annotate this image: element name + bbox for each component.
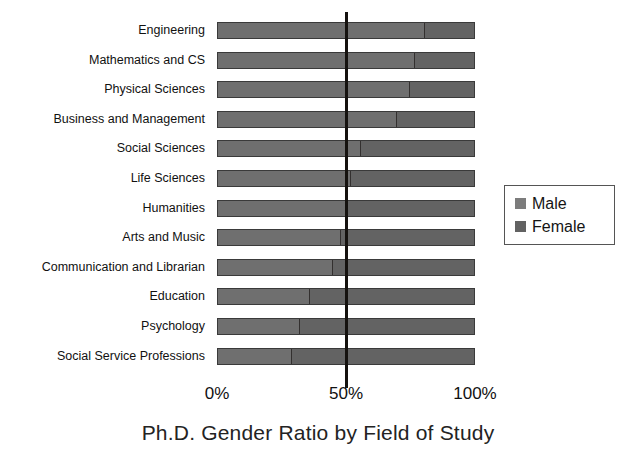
- bar-segment-female: [361, 141, 474, 156]
- x-axis-tick-label: 100%: [435, 382, 515, 406]
- x-axis-tick-label: 0%: [177, 382, 257, 406]
- bar-segment-male: [218, 141, 361, 156]
- bar-segment-female: [415, 53, 474, 68]
- chart-title: Ph.D. Gender Ratio by Field of Study: [0, 421, 636, 445]
- category-label: Psychology: [0, 318, 211, 335]
- legend-swatch-icon: [515, 198, 526, 209]
- category-label: Mathematics and CS: [0, 52, 211, 69]
- category-label: Business and Management: [0, 111, 211, 128]
- bar-segment-female: [292, 349, 474, 364]
- x-axis-tick-labels: 0%50%100%: [0, 382, 636, 408]
- bar-segment-male: [218, 112, 397, 127]
- bar-segment-female: [310, 289, 474, 304]
- bar-segment-male: [218, 289, 310, 304]
- legend-item: Female: [515, 215, 614, 238]
- chart-root: EngineeringMathematics and CSPhysical Sc…: [0, 0, 636, 459]
- chart-legend: MaleFemale: [504, 185, 615, 245]
- legend-label: Female: [532, 219, 585, 235]
- category-label: Education: [0, 288, 211, 305]
- bar-segment-female: [397, 112, 474, 127]
- bar-segment-male: [218, 319, 300, 334]
- legend-label: Male: [532, 196, 567, 212]
- category-label: Communication and Librarian: [0, 259, 211, 276]
- bar-segment-male: [218, 171, 351, 186]
- bar-segment-female: [300, 319, 474, 334]
- bar-segment-female: [341, 230, 474, 245]
- category-label: Physical Sciences: [0, 81, 211, 98]
- bar-segment-male: [218, 230, 341, 245]
- bar-segment-female: [410, 82, 474, 97]
- bar-segment-male: [218, 201, 346, 216]
- bar-segment-female: [346, 201, 474, 216]
- bar-segment-male: [218, 82, 410, 97]
- category-label: Engineering: [0, 22, 211, 39]
- legend-swatch-icon: [515, 221, 526, 232]
- bar-segment-male: [218, 349, 292, 364]
- category-label: Arts and Music: [0, 229, 211, 246]
- category-label: Life Sciences: [0, 170, 211, 187]
- category-label: Humanities: [0, 200, 211, 217]
- bar-segment-male: [218, 53, 415, 68]
- fifty-percent-reference-line: [345, 12, 348, 388]
- category-label: Social Sciences: [0, 140, 211, 157]
- legend-item: Male: [515, 192, 614, 215]
- category-label: Social Service Professions: [0, 348, 211, 365]
- bar-segment-male: [218, 260, 333, 275]
- bar-segment-female: [351, 171, 474, 186]
- bar-segment-female: [333, 260, 474, 275]
- bar-segment-male: [218, 23, 425, 38]
- bar-segment-female: [425, 23, 474, 38]
